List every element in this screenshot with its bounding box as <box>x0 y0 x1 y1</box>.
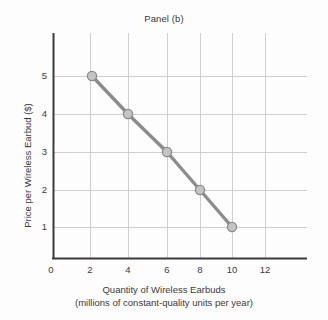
x-tick-label-10: 10 <box>220 264 244 275</box>
chart-figure: Panel (b) Price per Wireless Earbud ($) … <box>0 0 328 320</box>
y-tick-label-5: 5 <box>27 70 47 81</box>
x-axis-title-subtext: (millions of constant-quality units per … <box>0 297 328 308</box>
data-point-6-3[interactable] <box>162 147 171 156</box>
data-point-4-4[interactable] <box>123 109 132 118</box>
horizontal-gridlines <box>53 77 307 228</box>
x-tick-label-2: 2 <box>78 264 102 275</box>
x-axis-title: Quantity of Wireless Earbuds <box>0 284 328 295</box>
y-tick-label-4: 4 <box>27 108 47 119</box>
vertical-gridlines <box>91 33 266 258</box>
y-tick-label-2: 2 <box>27 184 47 195</box>
chart-title: Panel (b) <box>0 13 328 24</box>
data-point-10-1[interactable] <box>227 222 236 231</box>
data-point-8-2[interactable] <box>195 185 204 194</box>
x-tick-label-4: 4 <box>116 264 140 275</box>
y-tick-label-1: 1 <box>27 221 47 232</box>
y-axis-title: Price per Wireless Earbud ($) <box>22 66 33 266</box>
y-tick-label-3: 3 <box>27 146 47 157</box>
data-point-2-5[interactable] <box>87 71 96 80</box>
x-tick-label-12: 12 <box>253 264 277 275</box>
x-tick-label-6: 6 <box>155 264 179 275</box>
x-tick-label-8: 8 <box>188 264 212 275</box>
x-tick-label-0: 0 <box>39 264 63 275</box>
